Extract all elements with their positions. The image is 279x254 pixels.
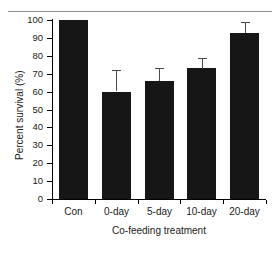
error-bar-cap	[155, 68, 164, 69]
error-bar-cap	[112, 70, 121, 71]
y-axis-tick-label: 90	[5, 33, 43, 43]
y-axis-title: Percent survival (%)	[14, 71, 25, 160]
bar	[230, 33, 259, 199]
error-bar-whisker	[245, 22, 246, 33]
x-axis-tick	[266, 200, 267, 204]
error-bar-cap	[198, 58, 207, 59]
x-axis-tick	[95, 200, 96, 204]
y-axis-tick-label: 0	[5, 194, 43, 204]
y-axis-tick	[47, 20, 52, 21]
x-axis-line	[52, 199, 266, 200]
x-axis-tick	[52, 200, 53, 204]
x-axis-category-label: 0-day	[95, 207, 138, 217]
y-axis-tick	[47, 127, 52, 128]
y-axis-tick	[47, 56, 52, 57]
x-axis-tick	[223, 200, 224, 204]
y-axis-tick	[47, 145, 52, 146]
bar	[59, 20, 88, 199]
y-axis-tick	[47, 38, 52, 39]
y-axis-line	[52, 19, 53, 200]
x-axis-category-label: 20-day	[223, 207, 266, 217]
x-axis-tick	[180, 200, 181, 204]
x-axis-tick	[138, 200, 139, 204]
figure-canvas: 0102030405060708090100 Con0-day5-day10-d…	[0, 0, 279, 254]
bar	[187, 68, 216, 199]
error-bar-whisker	[202, 58, 203, 69]
x-axis-title: Co-feeding treatment	[52, 225, 266, 236]
y-axis-tick	[47, 181, 52, 182]
y-axis-tick	[47, 110, 52, 111]
x-axis-category-label: Con	[52, 207, 95, 217]
top-rule-divider	[8, 11, 272, 12]
y-axis-tick-label: 10	[5, 176, 43, 186]
y-axis-tick	[47, 74, 52, 75]
x-axis-category-label: 5-day	[138, 207, 181, 217]
y-axis-tick-label: 100	[5, 15, 43, 25]
bar	[145, 81, 174, 199]
y-axis-tick	[47, 92, 52, 93]
error-bar-whisker	[159, 68, 160, 81]
y-axis-tick	[47, 163, 52, 164]
x-axis-category-label: 10-day	[180, 207, 223, 217]
error-bar-whisker	[116, 70, 117, 91]
y-axis-tick-label: 80	[5, 51, 43, 61]
bar	[102, 92, 131, 199]
error-bar-cap	[241, 22, 250, 23]
